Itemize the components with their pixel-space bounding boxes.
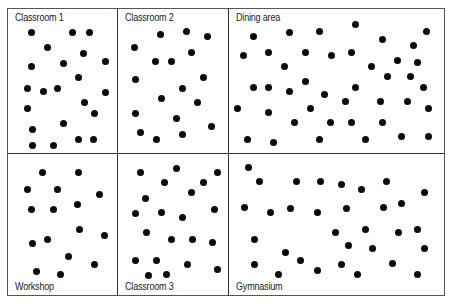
person-dot — [204, 33, 211, 40]
person-dot — [265, 49, 272, 56]
person-dot — [394, 57, 401, 64]
person-dot — [328, 52, 335, 59]
person-dot — [142, 195, 149, 202]
person-dot — [214, 169, 221, 176]
person-dot — [250, 33, 257, 40]
person-dot — [179, 131, 186, 138]
person-dot — [209, 239, 216, 246]
panel-label: Classroom 3 — [125, 281, 174, 292]
person-dot — [153, 136, 160, 143]
panel-dining-area — [228, 8, 445, 153]
person-dot — [137, 169, 144, 176]
person-dot — [395, 229, 402, 236]
person-dot — [369, 245, 376, 252]
person-dot — [241, 204, 248, 211]
person-dot — [76, 226, 83, 233]
person-dot — [348, 119, 355, 126]
person-dot — [102, 89, 109, 96]
person-dot — [81, 99, 88, 106]
person-dot — [251, 236, 258, 243]
person-dot — [28, 63, 35, 70]
person-dot — [60, 120, 67, 127]
person-dot — [267, 209, 274, 216]
person-dot — [102, 58, 109, 65]
person-dot — [421, 189, 428, 196]
person-dot — [425, 105, 432, 112]
panel-classroom-1 — [7, 8, 117, 153]
person-dot — [24, 186, 31, 193]
person-dot — [379, 36, 386, 43]
person-dot — [132, 210, 139, 217]
person-dot — [200, 179, 207, 186]
person-dot — [414, 226, 421, 233]
person-dot — [54, 186, 61, 193]
panel-label: Classroom 1 — [15, 12, 64, 23]
person-dot — [50, 142, 57, 149]
person-dot — [398, 200, 405, 207]
panel-label: Dining area — [236, 12, 280, 23]
person-dot — [29, 142, 36, 149]
person-dot — [414, 271, 421, 278]
person-dot — [384, 73, 391, 80]
person-dot — [90, 136, 97, 143]
person-dot — [96, 191, 103, 198]
person-dot — [275, 271, 282, 278]
person-dot — [256, 178, 263, 185]
person-dot — [173, 115, 180, 122]
panel-label: Workshop — [15, 281, 54, 292]
person-dot — [161, 179, 168, 186]
person-dot — [28, 206, 35, 213]
person-dot — [407, 73, 414, 80]
person-dot — [389, 260, 396, 267]
person-dot — [54, 85, 61, 92]
person-dot — [24, 105, 31, 112]
person-dot — [245, 164, 252, 171]
person-dot — [404, 98, 411, 105]
person-dot — [65, 253, 72, 260]
person-dot — [297, 257, 304, 264]
person-dot — [153, 257, 160, 264]
person-dot — [352, 84, 359, 91]
person-dot — [348, 49, 355, 56]
person-dot — [425, 133, 432, 140]
person-dot — [307, 105, 314, 112]
person-dot — [421, 245, 428, 252]
person-dot — [244, 136, 251, 143]
person-dot — [40, 88, 47, 95]
person-dot — [168, 58, 175, 65]
person-dot — [188, 49, 195, 56]
person-dot — [86, 29, 93, 36]
person-dot — [265, 84, 272, 91]
person-dot — [50, 206, 57, 213]
person-dot — [158, 209, 165, 216]
person-dot — [383, 178, 390, 185]
person-dot — [80, 50, 87, 57]
person-dot — [183, 28, 190, 35]
person-dot — [250, 84, 257, 91]
person-dot — [132, 76, 139, 83]
person-dot — [131, 44, 138, 51]
person-dot — [368, 63, 375, 70]
person-dot — [281, 63, 288, 70]
person-dot — [302, 78, 309, 85]
person-dot — [286, 29, 293, 36]
person-dot — [316, 28, 323, 35]
person-dot — [200, 74, 207, 81]
panel-gymnasium — [228, 153, 445, 296]
person-dot — [132, 257, 139, 264]
person-dot — [420, 84, 427, 91]
person-dot — [91, 110, 98, 117]
person-dot — [338, 181, 345, 188]
person-dot — [44, 236, 51, 243]
person-dot — [137, 129, 144, 136]
person-dot — [91, 261, 98, 268]
person-dot — [101, 232, 108, 239]
person-dot — [234, 105, 241, 112]
person-dot — [57, 271, 64, 278]
person-dot — [44, 44, 51, 51]
person-dot — [379, 119, 386, 126]
person-dot — [293, 178, 300, 185]
person-dot — [145, 272, 152, 279]
person-dot — [211, 206, 218, 213]
person-dot — [33, 268, 40, 275]
